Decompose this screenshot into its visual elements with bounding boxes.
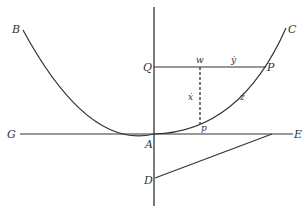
- label-w: w: [196, 55, 204, 65]
- label-y-dot: ẏ: [230, 55, 237, 65]
- label-g: G: [7, 128, 16, 141]
- label-c: C: [288, 23, 297, 36]
- label-p-lower: p: [201, 123, 207, 133]
- line-de: [155, 134, 272, 178]
- label-d: D: [143, 174, 153, 187]
- label-b: B: [11, 23, 20, 36]
- label-x-dot: ẋ: [188, 92, 193, 102]
- diagram-canvas: B C Q w ẏ P ẋ ż p G A E D: [0, 0, 308, 214]
- label-p-upper: P: [266, 61, 275, 74]
- label-e: E: [293, 128, 302, 141]
- label-q: Q: [143, 61, 152, 74]
- label-a: A: [144, 138, 153, 151]
- label-z-dot: ż: [239, 92, 245, 102]
- geometry-figure: B C Q w ẏ P ẋ ż p G A E D: [0, 0, 308, 214]
